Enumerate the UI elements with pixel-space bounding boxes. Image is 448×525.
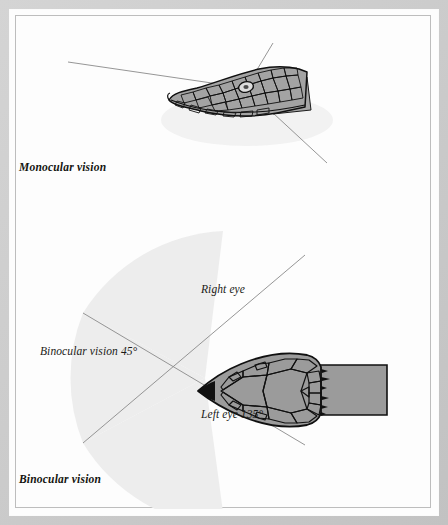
figure-page: Monocular vision Binocular vision Right …: [0, 0, 448, 525]
label-binocular-vision-45: Binocular vision 45°: [40, 345, 137, 357]
monocular-caption: Monocular vision: [19, 161, 106, 173]
label-left-eye-135: Left eye 135°: [201, 408, 263, 420]
binocular-caption: Binocular vision: [19, 473, 101, 485]
label-right-eye: Right eye: [201, 283, 245, 295]
monocular-pupil: [243, 85, 248, 89]
binocular-panel-group: [70, 231, 387, 510]
monocular-panel-group: [68, 43, 333, 163]
figure-illustration: [15, 15, 433, 510]
